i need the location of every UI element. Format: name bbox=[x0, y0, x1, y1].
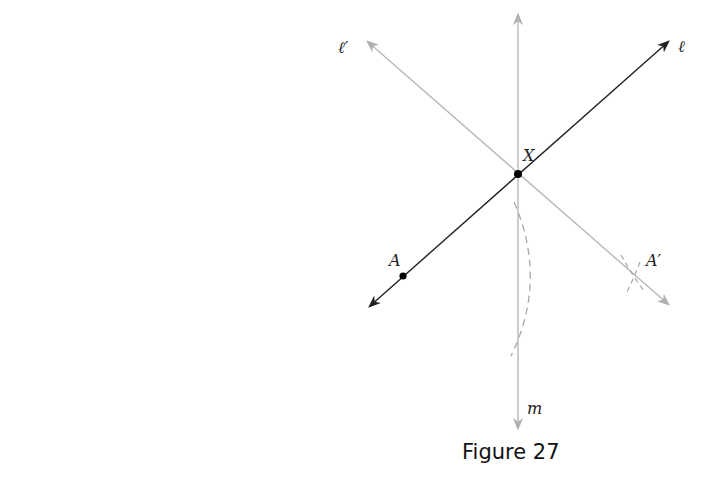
figure-caption: Figure 27 bbox=[462, 440, 560, 464]
label-a: A bbox=[387, 251, 401, 270]
point-x bbox=[514, 170, 522, 178]
reflection-diagram: ℓ ℓ′ m X A A′ bbox=[0, 0, 723, 500]
label-x: X bbox=[521, 146, 535, 165]
point-a bbox=[399, 272, 406, 279]
label-l-prime: ℓ′ bbox=[338, 38, 349, 57]
label-l: ℓ bbox=[678, 37, 685, 56]
construction-arc bbox=[511, 202, 530, 356]
label-m: m bbox=[527, 399, 542, 418]
label-a-prime: A′ bbox=[644, 251, 662, 270]
